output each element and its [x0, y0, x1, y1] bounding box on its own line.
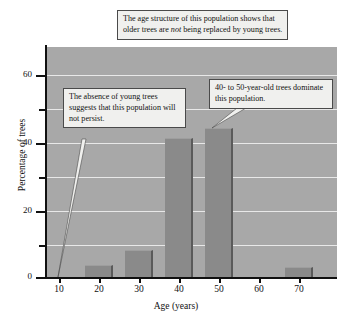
top-callout-emphasis: not: [171, 25, 181, 34]
right-callout: 40- to 50-year-old trees dominate this p…: [209, 79, 333, 109]
top-callout-text-after: being replaced by young trees.: [181, 25, 282, 34]
leader-lines: [0, 0, 352, 322]
top-callout: The age structure of this population sho…: [117, 10, 288, 40]
left-callout: The absence of young trees suggests that…: [63, 88, 186, 128]
figure: 60 40 20 0 10 20 30 40 50 60 70 Age (yea…: [0, 0, 352, 322]
